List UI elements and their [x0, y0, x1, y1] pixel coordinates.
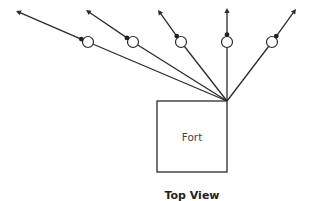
ray-line-upper — [88, 12, 128, 39]
ring-marker — [222, 37, 233, 48]
diagram-caption: Top View — [164, 189, 219, 201]
ray-line-lower — [181, 42, 227, 101]
arrowhead-icon — [224, 8, 229, 13]
dot-marker — [125, 35, 130, 40]
ring-marker — [83, 37, 94, 48]
ray-line-upper — [19, 12, 83, 40]
ray-line-lower — [88, 42, 227, 101]
ray-line-lower — [227, 42, 272, 101]
ray-line-lower — [133, 42, 227, 101]
dot-marker — [79, 37, 84, 42]
ray-line-upper — [160, 12, 178, 37]
rays-group — [16, 8, 296, 101]
dot-marker — [225, 32, 230, 37]
fort-label: Fort — [182, 131, 203, 143]
ray-4 — [222, 8, 233, 101]
arrowhead-icon — [158, 10, 163, 16]
ray-2 — [86, 10, 227, 101]
arrowhead-icon — [291, 9, 296, 15]
ray-3 — [158, 10, 227, 101]
ray-line-upper — [275, 11, 294, 37]
dot-marker — [174, 34, 179, 39]
fort-top-view-diagram: Fort Top View — [0, 0, 314, 201]
ray-5 — [227, 9, 296, 101]
ray-1 — [16, 11, 227, 101]
dot-marker — [274, 34, 279, 39]
